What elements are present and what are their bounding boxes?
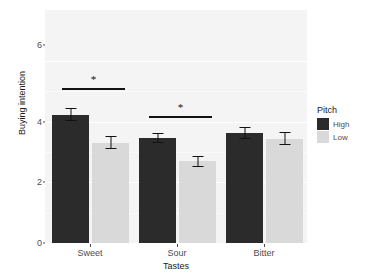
errorbar-cap-top <box>279 132 290 133</box>
y-tick-6: 6 <box>26 40 42 50</box>
errorbar-cap-bottom <box>279 144 290 145</box>
errorbar-cap-top <box>239 127 250 128</box>
y-tick-0: 0 <box>26 238 42 248</box>
errorbar-cap-bottom <box>152 142 163 143</box>
x-tick-dash-bitter <box>264 244 265 247</box>
significance-star-sour: * <box>149 102 212 113</box>
legend-item-high[interactable]: High <box>317 118 367 130</box>
x-tick-label-sour: Sour <box>147 248 207 258</box>
errorbar-cap-top <box>65 108 76 109</box>
y-tick-2-label: 2 <box>37 177 42 187</box>
bar-chart-figure: Buying intention 6 4 2 0 <box>0 0 368 280</box>
y-tick-2: 2 <box>26 177 42 187</box>
legend-item-low[interactable]: Low <box>317 131 367 143</box>
legend-swatch-low-icon <box>317 131 329 143</box>
significance-line-sweet <box>62 88 125 90</box>
y-tick-4: 4 <box>26 117 42 127</box>
errorbar-bitter-low <box>266 132 303 145</box>
legend-label-low: Low <box>333 133 348 142</box>
y-axis-tick-labels: 6 4 2 0 <box>22 0 42 280</box>
legend-title: Pitch <box>317 105 367 115</box>
y-tick-4-label: 4 <box>37 117 42 127</box>
bar-bitter-high <box>226 133 263 243</box>
bar-sweet-high <box>52 115 89 243</box>
x-tick-label-sweet: Sweet <box>60 248 120 258</box>
errorbar-cap-top <box>105 136 116 137</box>
y-tick-0-label: 0 <box>37 238 42 248</box>
gridline-y-0 <box>45 243 307 244</box>
significance-line-sour <box>149 116 212 118</box>
errorbar-cap-bottom <box>192 166 203 167</box>
errorbar-cap-bottom <box>65 120 76 121</box>
y-tick-6-label: 6 <box>37 40 42 50</box>
errorbar-cap-top <box>192 156 203 157</box>
bar-sour-high <box>139 138 176 243</box>
bar-sweet-low <box>92 143 129 243</box>
x-tick-label-bitter: Bitter <box>234 248 294 258</box>
errorbar-sour-low <box>179 156 216 167</box>
gridline-y-5 <box>45 91 307 92</box>
bar-sour-low <box>179 161 216 243</box>
errorbar-sweet-low <box>92 136 129 149</box>
errorbar-sweet-high <box>52 108 89 121</box>
significance-star-sweet: * <box>62 74 125 85</box>
x-tick-dash-sweet <box>90 244 91 247</box>
legend-label-high: High <box>333 120 349 129</box>
x-axis-title: Tastes <box>45 261 307 271</box>
legend: Pitch High Low <box>317 105 367 144</box>
errorbar-bitter-high <box>226 127 263 139</box>
errorbar-sour-high <box>139 133 176 143</box>
errorbar-cap-top <box>152 133 163 134</box>
plot-panel: * * <box>45 10 307 243</box>
bar-bitter-low <box>266 139 303 243</box>
gridline-y-6 <box>45 61 307 62</box>
legend-swatch-high-icon <box>317 118 329 130</box>
x-tick-dash-sour <box>177 244 178 247</box>
errorbar-cap-bottom <box>239 138 250 139</box>
errorbar-cap-bottom <box>105 148 116 149</box>
